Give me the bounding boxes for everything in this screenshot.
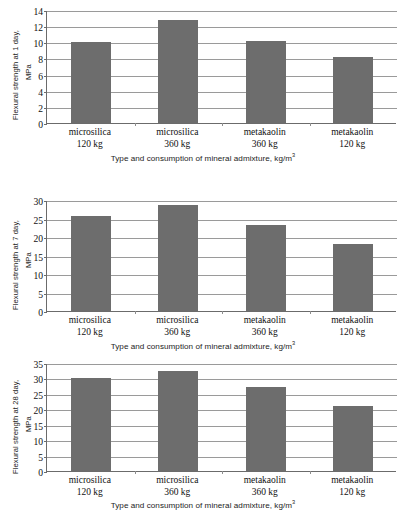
x-tick-mark xyxy=(222,123,223,126)
y-tick-label: 4 xyxy=(38,86,43,97)
bar xyxy=(333,406,373,471)
x-category-name: metakaolin xyxy=(309,315,397,327)
plot-area: 02468101214 xyxy=(46,11,396,124)
y-axis-title-line1: Flexural strength at 28 day, xyxy=(11,380,20,474)
y-tick-label: 8 xyxy=(38,54,43,65)
y-tick-label: 15 xyxy=(33,420,43,431)
x-category-name: microsilica xyxy=(134,475,222,487)
y-tick-mark xyxy=(44,441,47,442)
x-category-name: microsilica xyxy=(134,127,222,139)
y-tick-label: 15 xyxy=(33,251,43,262)
bar xyxy=(333,57,373,123)
x-category-dose: 120 kg xyxy=(309,487,397,499)
x-category-name: microsilica xyxy=(46,127,134,139)
x-tick-mark xyxy=(310,471,311,474)
gridline xyxy=(47,201,397,202)
x-category-dose: 360 kg xyxy=(221,487,309,499)
y-tick-mark xyxy=(44,426,47,427)
x-axis-title-text: Type and consumption of mineral admixtur… xyxy=(111,154,292,163)
y-tick-mark xyxy=(44,257,47,258)
bar xyxy=(71,42,111,123)
bar xyxy=(71,216,111,311)
x-axis-title: Type and consumption of mineral admixtur… xyxy=(0,499,406,510)
gridline xyxy=(47,27,397,28)
y-axis-unit-label: MPa xyxy=(24,64,33,80)
bar xyxy=(246,225,286,311)
x-category-name: metakaolin xyxy=(221,127,309,139)
x-category-label: metakaolin360 kg xyxy=(221,475,309,498)
x-tick-mark xyxy=(222,311,223,314)
y-tick-mark xyxy=(44,92,47,93)
bar xyxy=(71,378,111,471)
x-category-label: microsilica120 kg xyxy=(46,315,134,338)
chart-28-day: Flexural strength at 28 day,MPa051015202… xyxy=(0,342,406,503)
y-tick-label: 2 xyxy=(38,102,43,113)
x-axis-title: Type and consumption of mineral admixtur… xyxy=(0,152,406,163)
y-tick-mark xyxy=(44,59,47,60)
x-category-dose: 120 kg xyxy=(309,327,397,339)
x-category-label: metakaolin120 kg xyxy=(309,475,397,498)
x-category-label: microsilica360 kg xyxy=(134,315,222,338)
chart-1-day: Flexural strength at 1 day,MPa0246810121… xyxy=(0,0,406,172)
x-category-label: microsilica120 kg xyxy=(46,475,134,498)
x-category-dose: 360 kg xyxy=(134,327,222,339)
y-tick-label: 10 xyxy=(33,38,43,49)
y-axis-title-line1: Flexural strength at 7 day, xyxy=(11,220,20,310)
x-tick-mark xyxy=(135,123,136,126)
x-category-name: metakaolin xyxy=(221,315,309,327)
x-tick-mark xyxy=(310,123,311,126)
y-tick-label: 20 xyxy=(33,405,43,416)
y-tick-label: 20 xyxy=(33,233,43,244)
bar xyxy=(333,244,373,311)
y-tick-mark xyxy=(44,43,47,44)
x-tick-mark xyxy=(222,471,223,474)
y-tick-mark xyxy=(44,379,47,380)
x-category-dose: 360 kg xyxy=(134,139,222,151)
y-axis-unit-label: MPa xyxy=(24,416,33,432)
y-tick-label: 12 xyxy=(33,22,43,33)
gridline xyxy=(47,364,397,365)
x-category-dose: 360 kg xyxy=(221,139,309,151)
chart-7-day: Flexural strength at 7 day,MPa0510152025… xyxy=(0,172,406,342)
y-tick-mark xyxy=(44,275,47,276)
x-category-dose: 360 kg xyxy=(134,487,222,499)
x-category-name: metakaolin xyxy=(309,127,397,139)
y-tick-mark xyxy=(44,472,47,473)
x-tick-mark xyxy=(135,311,136,314)
y-tick-label: 0 xyxy=(38,467,43,478)
y-tick-label: 5 xyxy=(38,451,43,462)
y-tick-label: 5 xyxy=(38,288,43,299)
y-tick-mark xyxy=(44,108,47,109)
y-tick-mark xyxy=(44,238,47,239)
y-tick-mark xyxy=(44,395,47,396)
x-category-label: metakaolin360 kg xyxy=(221,315,309,338)
y-tick-mark xyxy=(44,76,47,77)
y-tick-mark xyxy=(44,27,47,28)
x-axis-title-text: Type and consumption of mineral admixtur… xyxy=(111,501,292,510)
y-tick-label: 10 xyxy=(33,270,43,281)
x-axis-title-exponent: 3 xyxy=(292,152,295,158)
x-category-dose: 120 kg xyxy=(46,487,134,499)
x-category-name: metakaolin xyxy=(309,475,397,487)
y-tick-mark xyxy=(44,457,47,458)
x-category-label: metakaolin120 kg xyxy=(309,315,397,338)
y-tick-label: 6 xyxy=(38,70,43,81)
y-tick-label: 30 xyxy=(33,196,43,207)
y-tick-label: 25 xyxy=(33,389,43,400)
x-tick-mark xyxy=(135,471,136,474)
x-category-name: microsilica xyxy=(46,315,134,327)
x-category-name: microsilica xyxy=(134,315,222,327)
y-tick-mark xyxy=(44,410,47,411)
y-tick-mark xyxy=(44,124,47,125)
y-tick-label: 0 xyxy=(38,307,43,318)
x-category-name: metakaolin xyxy=(221,475,309,487)
bar xyxy=(246,387,286,471)
y-tick-label: 0 xyxy=(38,119,43,130)
y-tick-label: 10 xyxy=(33,436,43,447)
x-category-dose: 120 kg xyxy=(46,139,134,151)
x-tick-mark xyxy=(310,311,311,314)
x-category-dose: 360 kg xyxy=(221,327,309,339)
x-category-dose: 120 kg xyxy=(46,327,134,339)
y-tick-mark xyxy=(44,294,47,295)
gridline xyxy=(47,11,397,12)
